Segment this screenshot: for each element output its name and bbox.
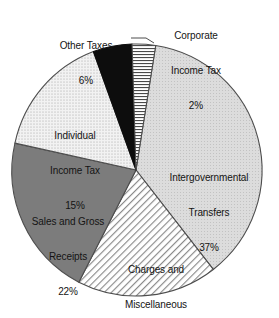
pie-chart-figure: Other Taxes 6% Corporate Income Tax 2% I… — [0, 0, 279, 318]
leader-line-corporate-income-tax — [131, 38, 154, 43]
pie-slice-group — [12, 44, 262, 296]
pie-chart-graphic — [0, 0, 279, 318]
